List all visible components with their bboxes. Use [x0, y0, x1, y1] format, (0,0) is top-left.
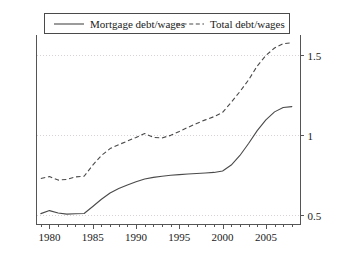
chart-container: 198019851990199520002005 0.511.5 Mortgag… — [0, 0, 352, 261]
legend-label-1: Mortgage debt/wages — [90, 18, 185, 30]
x-tick-label-2: 1990 — [125, 231, 148, 243]
x-axis-ticks: 198019851990199520002005 — [38, 225, 292, 243]
x-tick-label-0: 1980 — [38, 231, 61, 243]
series-line-2 — [41, 43, 292, 180]
chart-legend: Mortgage debt/wagesTotal debt/wages — [45, 14, 290, 34]
x-tick-label-5: 2005 — [255, 231, 278, 243]
y-axis-ticks: 0.511.5 — [301, 50, 322, 222]
legend-label-2: Total debt/wages — [210, 18, 285, 30]
axes — [37, 35, 301, 225]
y-tick-label-1: 1 — [308, 130, 314, 142]
y-tick-label-2: 1.5 — [308, 50, 322, 62]
data-series — [41, 43, 292, 214]
x-tick-label-3: 1995 — [168, 231, 191, 243]
x-tick-label-1: 1985 — [82, 231, 105, 243]
y-tick-label-0: 0.5 — [308, 210, 322, 222]
line-chart: 198019851990199520002005 0.511.5 Mortgag… — [0, 0, 352, 261]
gridlines — [37, 56, 301, 216]
x-tick-label-4: 2000 — [212, 231, 235, 243]
series-line-1 — [41, 107, 292, 215]
